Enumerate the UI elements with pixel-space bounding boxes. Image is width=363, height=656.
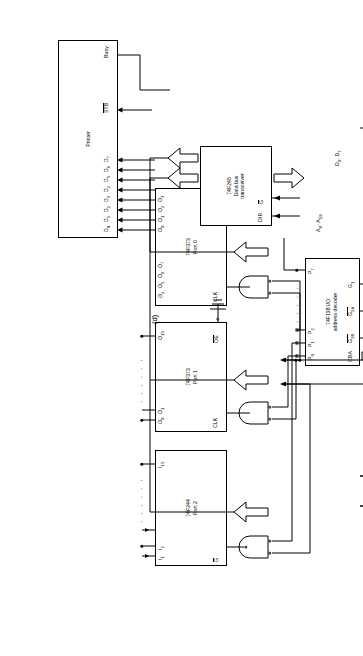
schematic-canvas: Printer D0 D1 D2 D3 D4 D5 D6 D7 STB Busy bbox=[0, 0, 363, 656]
figure-caption: (d) bbox=[150, 315, 159, 324]
data-bus-routing bbox=[0, 0, 363, 656]
label-a8-a19: A8- A19 bbox=[316, 214, 324, 232]
label-d0-d7: D0, D7 bbox=[335, 150, 343, 166]
